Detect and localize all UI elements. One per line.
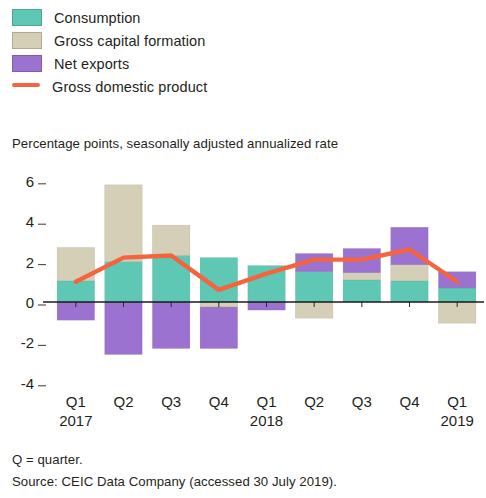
x-axis-quarter-label: Q3	[336, 392, 388, 411]
bar-segment[interactable]	[105, 185, 143, 262]
x-axis-label-group: Q12018	[241, 392, 293, 431]
bar-segment[interactable]	[391, 281, 429, 302]
y-axis-tick-label: 0	[26, 294, 34, 311]
legend-item-label: Gross capital formation	[54, 33, 205, 49]
chart-footnotes: Q = quarter.Source: CEIC Data Company (a…	[12, 449, 482, 493]
square-swatch-icon	[12, 32, 42, 49]
legend-item-gross-domestic-product[interactable]: Gross domestic product	[12, 75, 312, 98]
bar-segment[interactable]	[295, 272, 333, 302]
line-swatch-icon	[12, 85, 40, 89]
y-axis-tick-label: -4	[21, 375, 34, 390]
x-axis-quarter-label: Q2	[288, 392, 340, 411]
y-axis-unit-label: Percentage points, seasonally adjusted a…	[12, 136, 338, 151]
bar-segment[interactable]	[105, 262, 143, 302]
x-axis-year-label: 2017	[50, 411, 102, 431]
chart-page: ConsumptionGross capital formationNet ex…	[0, 0, 486, 498]
bar-segment[interactable]	[391, 265, 429, 281]
x-axis-quarter-label: Q4	[384, 392, 436, 411]
abbreviation-note: Q = quarter.	[12, 449, 482, 471]
bar-segment[interactable]	[438, 288, 476, 302]
y-axis-tick-label: -2	[21, 334, 34, 351]
y-axis-tick-label: 4	[26, 213, 34, 230]
square-swatch-icon	[12, 9, 42, 26]
x-axis-quarter-label: Q1	[50, 392, 102, 411]
x-axis-quarter-label: Q2	[98, 392, 150, 411]
bar-segment[interactable]	[343, 273, 381, 280]
x-axis-label-group: Q2	[288, 392, 340, 411]
x-axis-year-label: 2018	[241, 411, 293, 431]
x-axis-label-group: Q12019	[431, 392, 483, 431]
x-axis-label-group: Q4	[384, 392, 436, 411]
legend-item-gross-capital-formation[interactable]: Gross capital formation	[12, 29, 312, 52]
bar-segment[interactable]	[343, 280, 381, 302]
legend-item-net-exports[interactable]: Net exports	[12, 52, 312, 75]
bar-segment[interactable]	[152, 302, 190, 349]
bar-segment[interactable]	[105, 302, 143, 355]
legend-item-label: Consumption	[54, 10, 141, 26]
bar-segment[interactable]	[200, 307, 238, 348]
x-axis-label-group: Q2	[98, 392, 150, 411]
y-axis-tick-label: 6	[26, 173, 34, 190]
x-axis-labels: Q12017Q2Q3Q4Q12018Q2Q3Q4Q12019	[0, 392, 486, 438]
source-note: Source: CEIC Data Company (accessed 30 J…	[12, 471, 482, 493]
x-axis-quarter-label: Q3	[145, 392, 197, 411]
legend-item-label: Net exports	[54, 56, 129, 72]
x-axis-quarter-label: Q1	[241, 392, 293, 411]
x-axis-quarter-label: Q4	[193, 392, 245, 411]
square-swatch-icon	[12, 55, 42, 72]
x-axis-label-group: Q3	[145, 392, 197, 411]
plot-area: 6420-2-4	[0, 165, 486, 390]
chart-legend: ConsumptionGross capital formationNet ex…	[12, 6, 312, 98]
x-axis-quarter-label: Q1	[431, 392, 483, 411]
x-axis-label-group: Q4	[193, 392, 245, 411]
x-axis-label-group: Q12017	[50, 392, 102, 431]
bar-segment[interactable]	[152, 225, 190, 255]
legend-item-label: Gross domestic product	[52, 79, 207, 95]
y-axis-tick-label: 2	[26, 254, 34, 271]
x-axis-label-group: Q3	[336, 392, 388, 411]
x-axis-year-label: 2019	[431, 411, 483, 431]
legend-item-consumption[interactable]: Consumption	[12, 6, 312, 29]
